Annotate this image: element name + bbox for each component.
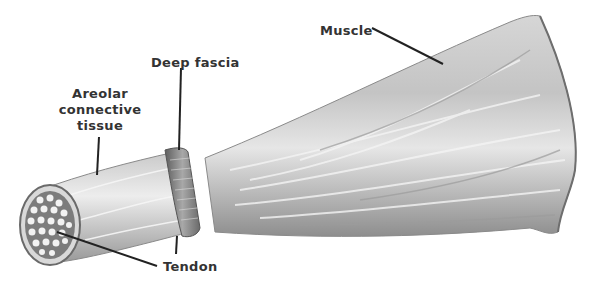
leader-tendon-from-band [176,236,177,254]
label-areolar-connective-tissue: Areolar connective tissue [50,86,150,134]
label-tendon: Tendon [163,259,218,275]
leader-areolar [97,137,99,175]
tendon-cross-section [20,185,80,265]
muscle-belly [205,15,576,236]
label-deep-fascia: Deep fascia [151,55,240,71]
leader-deep-fascia [179,68,181,150]
label-muscle: Muscle [320,23,373,39]
label-deep-fascia-text: Deep fascia [151,55,240,70]
muscle-tendon-illustration [0,0,597,291]
label-muscle-text: Muscle [320,23,373,38]
label-areolar-line1: Areolar [50,86,150,102]
label-areolar-line3: tissue [50,118,150,134]
label-areolar-line2: connective [50,102,150,118]
leader-muscle [372,28,443,64]
label-tendon-text: Tendon [163,259,218,274]
anatomy-figure: Muscle Deep fascia Areolar connective ti… [0,0,597,291]
